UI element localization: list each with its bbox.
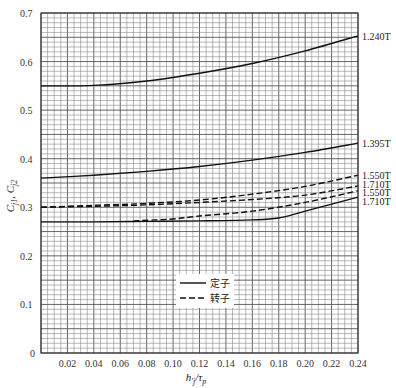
x-tick-label: 0.20 [296, 358, 314, 369]
y-tick-label: 0.5 [20, 105, 33, 116]
x-axis-ticks: 0.020.040.060.080.100.120.140.160.180.20… [59, 358, 367, 369]
y-tick-label: 0.6 [20, 57, 33, 68]
x-tick-label: 0.16 [244, 358, 262, 369]
curve-label: 1.710T [362, 196, 391, 207]
x-tick-label: 0.06 [112, 358, 130, 369]
x-tick-label: 0.12 [191, 358, 209, 369]
chart: 00.10.20.30.40.50.60.7 0.020.040.060.080… [0, 0, 396, 388]
legend: 定子转子 [176, 274, 234, 308]
x-tick-label: 0.18 [270, 358, 288, 369]
x-tick-label: 0.24 [349, 358, 367, 369]
legend-label: 定子 [210, 277, 230, 289]
x-axis-label: h'j/τp [186, 371, 206, 386]
y-tick-label: 0.7 [20, 8, 33, 19]
x-tick-label: 0.02 [59, 358, 77, 369]
y-axis-ticks: 00.10.20.30.40.50.60.7 [20, 8, 35, 359]
x-tick-label: 0.08 [138, 358, 156, 369]
curve-label: 1.240T [362, 31, 391, 42]
x-tick-label: 0.10 [164, 358, 182, 369]
x-tick-label: 0.22 [323, 358, 341, 369]
legend-label: 转子 [210, 292, 230, 304]
x-tick-label: 0.14 [217, 358, 235, 369]
y-axis-label: Cj1, Cj2 [4, 180, 19, 213]
x-tick-label: 0.04 [85, 358, 103, 369]
y-tick-label: 0.2 [20, 251, 33, 262]
y-tick-label: 0.3 [20, 202, 33, 213]
y-tick-label: 0.4 [20, 154, 33, 165]
curve-labels: 1.240T1.395T1.550T1.710T1.550T1.710T [362, 31, 391, 207]
curve-label: 1.395T [362, 138, 391, 149]
y-tick-label: 0 [30, 348, 35, 359]
y-tick-label: 0.1 [20, 299, 33, 310]
